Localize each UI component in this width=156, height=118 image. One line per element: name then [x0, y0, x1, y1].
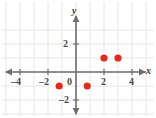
x-tick-label: 4: [129, 77, 134, 87]
coordinate-plane: [0, 0, 156, 118]
data-point: [100, 54, 107, 61]
y-tick-label: 2: [63, 39, 68, 49]
data-point: [84, 82, 91, 89]
y-tick-label: –2: [59, 95, 69, 105]
y-axis-arrow-up-icon: [73, 15, 80, 22]
x-axis-arrow-right-icon: [139, 69, 146, 76]
x-tick-label: 0: [67, 77, 72, 87]
y-axis-label: y: [72, 6, 76, 16]
x-tick-label: –4: [11, 77, 21, 87]
grid-lines: [2, 2, 154, 116]
data-point: [114, 54, 121, 61]
scatter-plot-figure: x y –4–2024 2–2: [0, 0, 156, 118]
x-axis-label: x: [146, 66, 151, 76]
x-tick-label: –2: [39, 77, 49, 87]
x-tick-label: 2: [101, 77, 106, 87]
data-point: [56, 82, 63, 89]
